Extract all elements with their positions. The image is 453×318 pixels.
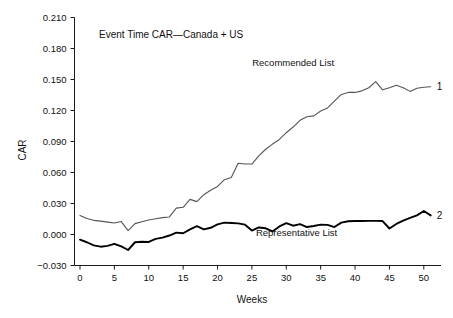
y-tick-label: 0.210: [43, 12, 67, 23]
series-paths: [80, 82, 431, 250]
y-tick-label: 0.000: [43, 229, 67, 240]
series-line-1: [80, 82, 431, 231]
y-tick-label: 0.150: [43, 74, 67, 85]
x-axis-tick-labels: 05101520253035404550: [77, 272, 429, 283]
y-tick-label: −0.030: [37, 260, 66, 271]
x-tick-label: 0: [77, 272, 82, 283]
x-tick-label: 45: [384, 272, 395, 283]
x-tick-label: 30: [281, 272, 292, 283]
x-axis-ticks: [80, 266, 424, 270]
chart-figure: −0.0300.0000.0300.0600.0900.1200.1500.18…: [0, 0, 453, 318]
series-end-marker-2: 2: [437, 210, 443, 221]
y-axis-tick-labels: −0.0300.0000.0300.0600.0900.1200.1500.18…: [37, 12, 66, 271]
series-end-marker-1: 1: [437, 81, 443, 92]
series-label-2: Representative List: [256, 227, 338, 238]
x-tick-label: 25: [247, 272, 258, 283]
x-tick-label: 40: [350, 272, 361, 283]
y-axis-ticks: [71, 18, 75, 266]
x-tick-label: 15: [178, 272, 189, 283]
y-tick-label: 0.180: [43, 43, 67, 54]
chart-title: Event Time CAR—Canada + US: [99, 29, 244, 40]
line-chart: −0.0300.0000.0300.0600.0900.1200.1500.18…: [0, 0, 453, 318]
x-tick-label: 35: [315, 272, 326, 283]
y-tick-label: 0.120: [43, 105, 67, 116]
y-tick-label: 0.030: [43, 198, 67, 209]
y-tick-label: 0.090: [43, 136, 67, 147]
series-label-1: Recommended List: [252, 57, 334, 68]
x-tick-label: 5: [112, 272, 117, 283]
x-tick-label: 20: [212, 272, 223, 283]
x-axis-title: Weeks: [237, 294, 267, 305]
series-annotations: Recommended List1Representative List2: [252, 57, 442, 238]
y-axis-title: CAR: [17, 139, 28, 160]
x-tick-label: 50: [419, 272, 430, 283]
y-tick-label: 0.060: [43, 167, 67, 178]
x-tick-label: 10: [143, 272, 154, 283]
